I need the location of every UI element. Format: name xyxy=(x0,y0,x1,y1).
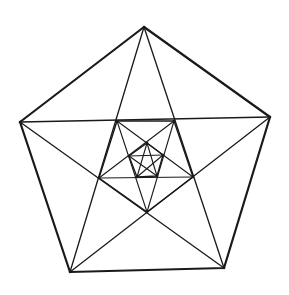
second-pentagon-diagonal xyxy=(147,121,174,212)
vertex-dot xyxy=(146,142,149,145)
vertex-dot xyxy=(19,121,22,124)
vertex-dot xyxy=(223,267,226,270)
pentagon-levels xyxy=(19,26,272,274)
vertex-dot xyxy=(143,26,146,29)
third-pentagon-diagonal xyxy=(137,155,163,177)
vertex-dot xyxy=(156,175,159,178)
nested-pentagram-figure xyxy=(0,0,289,295)
outer-pentagon-diagonal xyxy=(70,27,144,272)
third-pentagon-diagonal xyxy=(129,155,163,156)
vertex-dot xyxy=(98,177,101,180)
diagram-canvas xyxy=(0,0,289,295)
vertex-dot xyxy=(269,116,272,119)
second-pentagon-diagonal xyxy=(99,121,174,178)
vertex-dot xyxy=(162,154,165,157)
vertex-dot xyxy=(136,176,139,179)
outer-pentagon-diagonal xyxy=(144,27,224,268)
vertex-dot xyxy=(173,120,176,123)
vertex-dot xyxy=(192,176,195,179)
second-pentagon-diagonal xyxy=(117,121,147,212)
vertex-dot xyxy=(146,211,149,214)
third-pentagon-diagonal xyxy=(147,143,157,176)
vertex-dot xyxy=(69,271,72,274)
vertex-dot xyxy=(116,120,119,123)
vertex-dot xyxy=(128,155,131,158)
